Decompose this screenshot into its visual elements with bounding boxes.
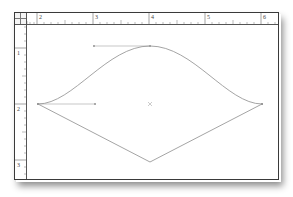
center-point-icon (148, 102, 152, 106)
handle-point[interactable] (93, 45, 95, 47)
ruler-label: 5 (207, 14, 210, 20)
drawing-window: 2 3 4 5 6 1 2 3 (14, 12, 279, 180)
horizontal-ruler[interactable]: 2 3 4 5 6 (27, 13, 278, 25)
vertical-ruler-ticks (15, 25, 27, 180)
ruler-label: 4 (151, 14, 154, 20)
ruler-label: 3 (95, 14, 98, 20)
drawing-canvas[interactable] (27, 25, 278, 179)
vertical-ruler[interactable]: 1 2 3 (15, 25, 27, 179)
ruler-label: 1 (17, 50, 20, 56)
anchor-point[interactable] (37, 103, 39, 105)
ruler-origin-corner[interactable] (15, 13, 27, 25)
anchor-point[interactable] (261, 103, 263, 105)
ruler-label: 6 (263, 14, 266, 20)
ruler-label: 3 (17, 162, 20, 168)
handle-point[interactable] (94, 103, 96, 105)
ruler-label: 2 (39, 14, 42, 20)
ruler-label: 2 (17, 106, 20, 112)
